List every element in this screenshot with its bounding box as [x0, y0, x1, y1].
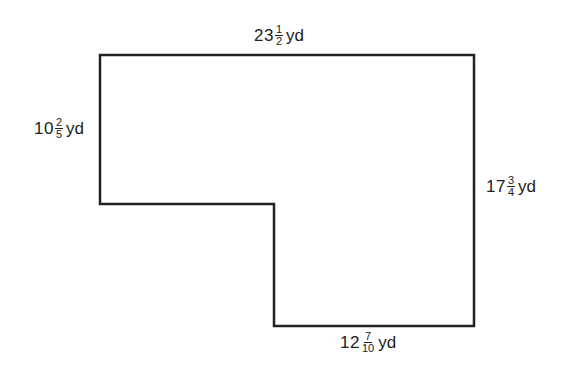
top-unit: yd	[286, 26, 304, 46]
right-unit: yd	[518, 177, 536, 197]
bottom-unit: yd	[378, 333, 396, 353]
left-fraction: 2 5	[55, 117, 63, 140]
top-dimension-label: 23 1 2 yd	[254, 24, 304, 47]
right-dimension-label: 17 3 4 yd	[486, 175, 536, 198]
left-whole: 10	[34, 119, 54, 139]
figure-outline	[100, 55, 474, 326]
right-fraction: 3 4	[507, 175, 515, 198]
top-fraction: 1 2	[275, 24, 283, 47]
top-whole: 23	[254, 26, 274, 46]
bottom-fraction: 7 10	[361, 331, 375, 354]
left-unit: yd	[66, 119, 84, 139]
bottom-whole: 12	[340, 333, 360, 353]
bottom-dimension-label: 12 7 10 yd	[340, 331, 396, 354]
left-dimension-label: 10 2 5 yd	[34, 117, 84, 140]
right-whole: 17	[486, 177, 506, 197]
